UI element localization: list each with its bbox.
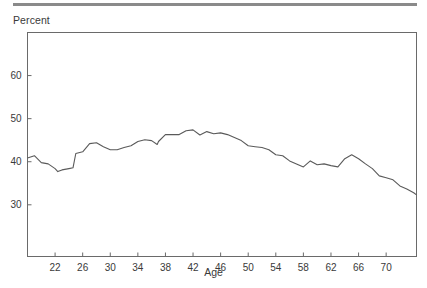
plot-frame <box>28 33 417 257</box>
y-tick-label: 50 <box>10 113 22 124</box>
line-chart: 30405060 22263034384246505458626670 <box>0 0 427 288</box>
x-axis-title: Age <box>0 266 427 278</box>
y-tick-label: 60 <box>10 70 22 81</box>
data-line <box>28 130 417 195</box>
y-axis: 30405060 <box>10 70 31 210</box>
y-tick-label: 40 <box>10 156 22 167</box>
y-tick-label: 30 <box>10 199 22 210</box>
